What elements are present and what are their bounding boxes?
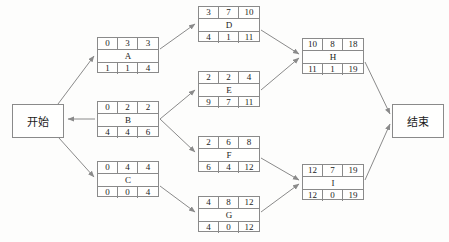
activity-c-top-row: 0 4 4 [98, 162, 158, 174]
edge-g-i [261, 184, 299, 212]
edge-b-f [160, 119, 195, 152]
activity-d-duration: 7 [219, 7, 239, 18]
activity-b-early-finish: 2 [138, 102, 158, 113]
activity-f-early-start: 2 [199, 137, 219, 148]
activity-b-early-start: 0 [98, 102, 118, 113]
activity-h-bottom-row: 11 1 19 [303, 63, 363, 75]
activity-g-late-start: 4 [199, 222, 219, 233]
activity-i-early-start: 12 [303, 165, 323, 176]
activity-f-bottom-row: 6 4 12 [199, 161, 259, 173]
activity-g-early-finish: 12 [239, 197, 259, 208]
activity-c-duration: 4 [118, 162, 138, 173]
activity-i-duration: 7 [323, 165, 343, 176]
activity-c-bottom-row: 0 0 4 [98, 186, 158, 198]
activity-b-late-start: 4 [98, 127, 118, 138]
activity-f-late-start: 6 [199, 162, 219, 173]
terminal-node-start[interactable]: 开始 [12, 104, 64, 138]
activity-a-top-row: 0 3 3 [98, 38, 158, 50]
activity-a-late-finish: 4 [138, 63, 158, 74]
activity-b-late-finish: 6 [138, 127, 158, 138]
network-diagram-canvas: 开始 结束 0 3 3 A 1 1 4 0 2 2 B 4 4 6 [0, 0, 449, 242]
activity-g-label: G [199, 209, 259, 221]
activity-f-label: F [199, 149, 259, 161]
edge-i-end [365, 124, 390, 180]
activity-b-label: B [98, 114, 158, 126]
activity-c-early-finish: 4 [138, 162, 158, 173]
activity-node-c[interactable]: 0 4 4 C 0 0 4 [97, 161, 159, 197]
activity-b-bottom-row: 4 4 6 [98, 126, 158, 138]
activity-f-slack: 4 [219, 162, 239, 173]
activity-d-bottom-row: 4 1 11 [199, 31, 259, 43]
activity-node-g[interactable]: 4 8 12 G 4 0 12 [198, 196, 260, 232]
edge-e-h [261, 58, 299, 90]
edge-c-g [160, 186, 195, 212]
activity-g-top-row: 4 8 12 [199, 197, 259, 209]
activity-h-label: H [303, 51, 363, 63]
edge-b-e [160, 90, 195, 119]
activity-d-late-finish: 11 [239, 32, 259, 43]
activity-h-top-row: 10 8 18 [303, 39, 363, 51]
activity-i-late-start: 12 [303, 190, 323, 201]
activity-g-bottom-row: 4 0 12 [199, 221, 259, 233]
activity-a-late-start: 1 [98, 63, 118, 74]
activity-i-slack: 0 [323, 190, 343, 201]
activity-h-late-finish: 19 [343, 64, 363, 75]
activity-d-late-start: 4 [199, 32, 219, 43]
activity-c-late-finish: 4 [138, 187, 158, 198]
activity-e-early-start: 2 [199, 72, 219, 83]
activity-g-slack: 0 [219, 222, 239, 233]
edge-d-h [261, 30, 299, 54]
activity-a-duration: 3 [118, 38, 138, 49]
activity-d-top-row: 3 7 10 [199, 7, 259, 19]
activity-a-slack: 1 [118, 63, 138, 74]
activity-d-label: D [199, 19, 259, 31]
activity-f-early-finish: 8 [239, 137, 259, 148]
terminal-start-label: 开始 [27, 113, 49, 129]
activity-h-duration: 8 [323, 39, 343, 50]
activity-g-early-start: 4 [199, 197, 219, 208]
activity-node-d[interactable]: 3 7 10 D 4 1 11 [198, 6, 260, 42]
activity-c-label: C [98, 174, 158, 186]
activity-e-early-finish: 4 [239, 72, 259, 83]
activity-b-top-row: 0 2 2 [98, 102, 158, 114]
activity-node-b[interactable]: 0 2 2 B 4 4 6 [97, 101, 159, 137]
activity-i-late-finish: 19 [343, 190, 363, 201]
activity-node-f[interactable]: 2 6 8 F 6 4 12 [198, 136, 260, 172]
edge-f-i [261, 158, 299, 180]
activity-e-slack: 7 [219, 97, 239, 108]
activity-node-e[interactable]: 2 2 4 E 9 7 11 [198, 71, 260, 107]
activity-f-duration: 6 [219, 137, 239, 148]
activity-a-early-finish: 3 [138, 38, 158, 49]
activity-h-late-start: 11 [303, 64, 323, 75]
activity-h-slack: 1 [323, 64, 343, 75]
activity-a-label: A [98, 50, 158, 62]
activity-node-h[interactable]: 10 8 18 H 11 1 19 [302, 38, 364, 74]
activity-e-duration: 2 [219, 72, 239, 83]
activity-f-top-row: 2 6 8 [199, 137, 259, 149]
terminal-node-end[interactable]: 结束 [392, 104, 444, 138]
activity-b-duration: 2 [118, 102, 138, 113]
activity-c-late-start: 0 [98, 187, 118, 198]
activity-i-label: I [303, 177, 363, 189]
activity-node-a[interactable]: 0 3 3 A 1 1 4 [97, 37, 159, 73]
activity-e-bottom-row: 9 7 11 [199, 96, 259, 108]
activity-c-early-start: 0 [98, 162, 118, 173]
edge-h-end [365, 62, 390, 114]
activity-i-bottom-row: 12 0 19 [303, 189, 363, 201]
activity-node-i[interactable]: 12 7 19 I 12 0 19 [302, 164, 364, 200]
activity-e-late-finish: 11 [239, 97, 259, 108]
activity-a-bottom-row: 1 1 4 [98, 62, 158, 74]
activity-d-early-finish: 10 [239, 7, 259, 18]
activity-c-slack: 0 [118, 187, 138, 198]
activity-g-duration: 8 [219, 197, 239, 208]
activity-e-top-row: 2 2 4 [199, 72, 259, 84]
activity-g-late-finish: 12 [239, 222, 259, 233]
terminal-end-label: 结束 [407, 113, 429, 129]
activity-f-late-finish: 12 [239, 162, 259, 173]
activity-d-early-start: 3 [199, 7, 219, 18]
activity-i-early-finish: 19 [343, 165, 363, 176]
activity-h-early-start: 10 [303, 39, 323, 50]
activity-d-slack: 1 [219, 32, 239, 43]
activity-i-top-row: 12 7 19 [303, 165, 363, 177]
activity-b-slack: 4 [118, 127, 138, 138]
